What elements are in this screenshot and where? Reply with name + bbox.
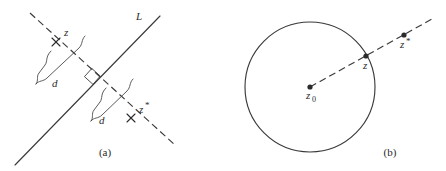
ray-dashed-line	[310, 19, 432, 87]
point-zstar-marker-a	[127, 114, 135, 122]
point-z-marker-b	[363, 53, 368, 58]
reflection-and-inversion-figure: L z z * d d (a)	[0, 0, 446, 171]
brace-upper	[36, 36, 85, 84]
label-point-zstar-b-base: z	[399, 38, 405, 50]
panel-b-group: z 0 z z * (b)	[245, 19, 432, 159]
label-point-z-b: z	[362, 59, 368, 71]
label-point-zstar-b-superscript: *	[406, 36, 411, 46]
label-line-L: L	[135, 10, 142, 22]
label-distance-lower: d	[99, 114, 105, 126]
label-point-zstar-b: z *	[399, 36, 411, 50]
label-point-z-a: z	[63, 26, 69, 38]
point-z-marker-a	[52, 38, 60, 46]
right-angle-square-icon	[85, 69, 101, 85]
mirror-line-L	[15, 16, 160, 165]
label-center-z0: z 0	[305, 89, 316, 104]
caption-panel-b: (b)	[384, 146, 397, 159]
panel-a-group: L z z * d d (a)	[15, 10, 175, 165]
label-point-zstar-a: z *	[138, 100, 150, 115]
label-point-zstar-a-base: z	[138, 103, 144, 115]
label-center-z0-subscript: 0	[312, 95, 316, 104]
label-point-zstar-a-superscript: *	[145, 100, 150, 110]
brace-lower	[91, 79, 133, 121]
label-center-z0-base: z	[305, 89, 311, 101]
figure-container: L z z * d d (a)	[0, 0, 446, 171]
caption-panel-a: (a)	[99, 146, 112, 159]
label-distance-upper: d	[52, 77, 58, 89]
